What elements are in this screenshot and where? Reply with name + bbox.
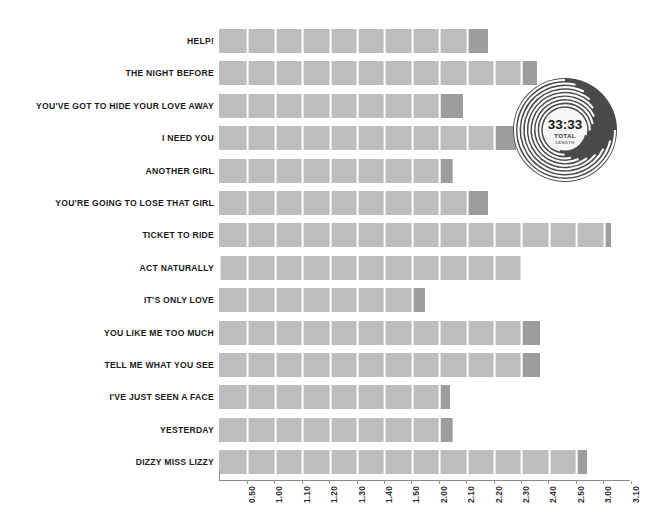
total-length-caption-line2: LENGTH (555, 140, 574, 145)
category-label: I NEED YOU (0, 133, 214, 143)
bar-row[interactable]: 2.05 (219, 159, 453, 183)
bar-segment-gridlines (219, 288, 425, 312)
axis-tick-label: 2.10 (466, 486, 476, 503)
category-label: TICKET TO RIDE (0, 230, 214, 240)
bar[interactable]: 2.30 (219, 256, 521, 280)
bar-partial-segment (441, 385, 450, 409)
axis-tick-mark (494, 481, 495, 484)
bar-partial-segment (523, 321, 540, 345)
axis-tick-label: 3.10 (631, 486, 641, 503)
bar-partial-segment (523, 353, 540, 377)
axis-tick-mark (603, 481, 604, 484)
category-axis: HELP!THE NIGHT BEFOREYOU'VE GOT TO HIDE … (0, 25, 214, 480)
bar[interactable]: 2.54 (219, 450, 587, 474)
axis-tick-mark (384, 481, 385, 484)
axis-tick-label: 1.20 (329, 486, 339, 503)
category-label: HELP! (0, 36, 214, 46)
chart-container: HELP!THE NIGHT BEFOREYOU'VE GOT TO HIDE … (0, 0, 656, 530)
axis-tick-mark (302, 481, 303, 484)
vinyl-record-badge: 33:33TOTALLENGTH (513, 78, 617, 182)
bar-row[interactable]: 2.37 (219, 353, 540, 377)
category-label: TELL ME WHAT YOU SEE (0, 360, 214, 370)
bar[interactable]: 2.18 (219, 29, 488, 53)
axis-tick-label: 1.10 (302, 486, 312, 503)
bar-segment-gridlines (219, 321, 540, 345)
axis-tick-label: 1.00 (274, 486, 284, 503)
axis-tick-label: 2.00 (439, 486, 449, 503)
axis-tick-label: 1.40 (384, 486, 394, 503)
bar-row[interactable]: 2.28 (219, 126, 516, 150)
category-label: ANOTHER GIRL (0, 166, 214, 176)
total-length-value: 33:33 (548, 117, 583, 132)
bar[interactable]: 2.09 (219, 94, 463, 118)
bar-segment-gridlines (219, 223, 611, 247)
bar-row[interactable]: 1.55 (219, 288, 425, 312)
vinyl-record-icon: 33:33TOTALLENGTH (513, 78, 617, 182)
bar-segment-gridlines (219, 256, 521, 280)
axis-tick-label: 2.20 (494, 486, 504, 503)
category-label: I'VE JUST SEEN A FACE (0, 392, 214, 402)
bar-row[interactable]: 3.03 (219, 223, 611, 247)
bar[interactable]: 2.18 (219, 191, 488, 215)
bar[interactable]: 2.05 (219, 418, 453, 442)
bar[interactable]: 2.28 (219, 126, 516, 150)
axis-tick-mark (247, 481, 248, 484)
axis-tick-label: 1.50 (411, 486, 421, 503)
bar-segment-gridlines (219, 385, 450, 409)
bar[interactable]: 1.55 (219, 288, 425, 312)
bar-segment-gridlines (219, 29, 488, 53)
axis-tick-label: 2.50 (576, 486, 586, 503)
bar-segment-gridlines (219, 353, 540, 377)
category-label: YOU LIKE ME TOO MUCH (0, 328, 214, 338)
axis-tick-label: 2.40 (548, 486, 558, 503)
bar-partial-segment (441, 159, 453, 183)
axis-tick-mark (521, 481, 522, 484)
bar-row[interactable]: 2.04 (219, 385, 450, 409)
category-label: IT'S ONLY LOVE (0, 295, 214, 305)
axis-tick-mark (631, 481, 632, 484)
category-label: ACT NATURALLY (0, 263, 214, 273)
axis-tick-mark (274, 481, 275, 484)
bar-segment-gridlines (219, 159, 453, 183)
category-label: THE NIGHT BEFORE (0, 68, 214, 78)
bar-segment-gridlines (219, 61, 537, 85)
bar-row[interactable]: 2.05 (219, 418, 453, 442)
axis-tick-mark (411, 481, 412, 484)
axis-tick-label: 2.30 (521, 486, 531, 503)
bar[interactable]: 2.04 (219, 385, 450, 409)
bar-row[interactable]: 2.36 (219, 61, 537, 85)
bar-partial-segment (413, 288, 425, 312)
bar[interactable]: 3.03 (219, 223, 611, 247)
bar-row[interactable]: 2.37 (219, 321, 540, 345)
bar-segment-gridlines (219, 418, 453, 442)
category-label: YOU'RE GOING TO LOSE THAT GIRL (0, 198, 214, 208)
bar-partial-segment (441, 418, 453, 442)
axis-tick-mark (439, 481, 440, 484)
category-label: YESTERDAY (0, 425, 214, 435)
bar-segment-gridlines (219, 191, 488, 215)
bar[interactable]: 2.05 (219, 159, 453, 183)
axis-tick-label: 1.30 (357, 486, 367, 503)
bar-row[interactable]: 2.54 (219, 450, 587, 474)
total-length-caption-line1: TOTAL (554, 132, 576, 139)
axis-tick-mark (548, 481, 549, 484)
axis-tick-label: 3.00 (603, 486, 613, 503)
bar[interactable]: 2.37 (219, 353, 540, 377)
axis-tick-mark (357, 481, 358, 484)
bar[interactable]: 2.37 (219, 321, 540, 345)
bar-partial-segment (441, 94, 464, 118)
bar-row[interactable]: 2.09 (219, 94, 463, 118)
bar-row[interactable]: 2.18 (219, 191, 488, 215)
bar-partial-segment (578, 450, 587, 474)
axis-tick-label: 0.50 (247, 486, 257, 503)
bar-partial-segment (605, 223, 611, 247)
bar-row[interactable]: 2.30 (219, 256, 521, 280)
bar-partial-segment (468, 191, 488, 215)
bar-segment-gridlines (219, 126, 516, 150)
bar-row[interactable]: 2.18 (219, 29, 488, 53)
category-label: DIZZY MISS LIZZY (0, 457, 214, 467)
bar[interactable]: 2.36 (219, 61, 537, 85)
bar-segment-gridlines (219, 94, 463, 118)
value-axis-ticks: 0.501.001.101.201.301.401.502.002.102.20… (219, 481, 630, 530)
bar-partial-segment (468, 29, 488, 53)
